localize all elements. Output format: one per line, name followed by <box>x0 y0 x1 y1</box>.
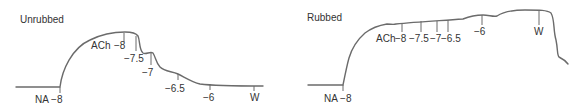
conc-label-8: −8 <box>114 41 125 51</box>
na-label: NA −8 <box>324 94 352 104</box>
wash-label: W <box>250 93 259 103</box>
conc-label-6: −6 <box>203 93 214 103</box>
conc-label-6: −6 <box>474 27 485 37</box>
conc-label-8: −8 <box>395 34 406 44</box>
rubbed-panel: Rubbed NA −8 ACh −8 −7.5 −7 −6.5 −6 W <box>285 0 575 112</box>
unrubbed-panel: Unrubbed NA −8 ACh −8 −7.5 −7 −6.5 −6 W <box>0 0 290 112</box>
conc-label-7: −7 <box>430 34 441 44</box>
na-label: NA −8 <box>35 95 63 105</box>
conc-label-6-5: −6.5 <box>165 84 185 94</box>
wash-label: W <box>534 27 543 37</box>
conc-label-7-5: −7.5 <box>124 54 144 64</box>
ach-label: ACh <box>376 34 395 44</box>
ach-label: ACh <box>91 41 110 51</box>
conc-label-7: −7 <box>142 68 153 78</box>
conc-label-6-5: −6.5 <box>441 34 461 44</box>
conc-label-7-5: −7.5 <box>409 34 429 44</box>
